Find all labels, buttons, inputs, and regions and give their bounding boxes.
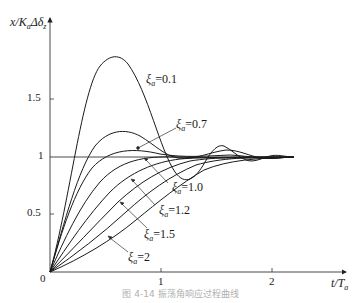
y-tick-1.5: 1.5 <box>27 91 41 103</box>
y-tick-0.5: 0.5 <box>27 206 41 218</box>
y-tick-1: 1 <box>38 149 44 161</box>
x-tick-1: 1 <box>158 275 164 287</box>
curve-zeta-0.7 <box>50 131 294 272</box>
response-chart <box>0 0 361 303</box>
annotation-zeta-0.1: ξa=0.1 <box>146 72 177 88</box>
annotation-zeta-0.7: ξa=0.7 <box>176 117 207 133</box>
figure-caption: 图 4-14 振荡角响应过程曲线 <box>0 287 361 300</box>
annotation-zeta-1.5: ξa=1.5 <box>144 227 175 243</box>
x-tick-2: 2 <box>269 275 275 287</box>
annotation-zeta-1.0: ξa=1.0 <box>172 180 203 196</box>
y-tick-0: 0 <box>40 272 46 284</box>
annotation-zeta-2: ξa=2 <box>128 250 150 266</box>
annotation-zeta-1.2: ξa=1.2 <box>159 203 190 219</box>
y-axis-label: x/KaΔδz <box>10 15 46 31</box>
